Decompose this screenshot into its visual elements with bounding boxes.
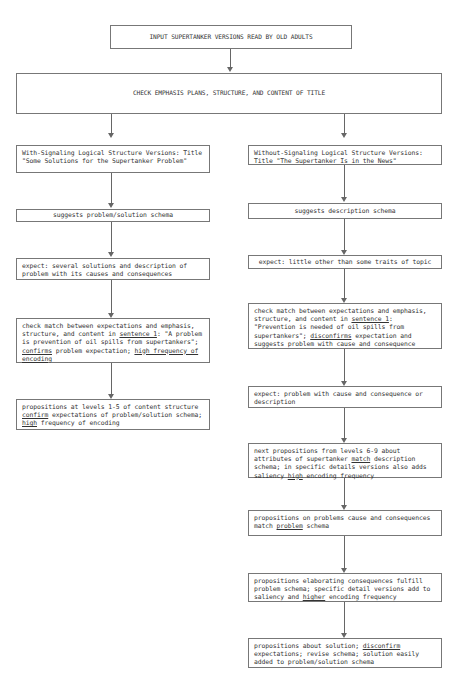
text-segment: encoding frequency [325, 593, 396, 601]
underlined-disconfirm: disconfirm [363, 642, 400, 650]
right-box-expect-problem: expect: problem with cause and consequen… [248, 386, 442, 408]
right-box-check-match: check match between expectations and emp… [248, 303, 442, 349]
text-segment: encoding frequency [303, 472, 374, 480]
right-box-1-text: Without-Signaling Logical Structure Vers… [254, 149, 423, 165]
underlined-sentence-1: sentence 1 [351, 315, 388, 323]
connector-right-1 [344, 164, 345, 198]
underlined-confirm: confirm [22, 411, 48, 419]
right-box-suggests-schema: suggests description schema [248, 203, 442, 219]
underlined-match: match [351, 455, 370, 463]
left-box-2-text: suggests problem/solution schema [53, 211, 173, 219]
underlined-disconfirms: disconfirms [310, 332, 351, 340]
arrowhead-icon [341, 197, 347, 202]
underlined-sentence-1: sentence 1 [119, 330, 156, 338]
check-title-box: CHECK EMPHASIS PLANS, STRUCTURE, AND CON… [16, 73, 442, 114]
connector-right-5 [344, 407, 345, 439]
connector-right-4 [344, 348, 345, 382]
connector-left-3 [111, 280, 112, 314]
underlined-high: high [288, 472, 303, 480]
right-box-next-propositions: next propositions from levels 6-9 about … [248, 443, 442, 478]
connector-right-2 [344, 219, 345, 251]
underlined-high: high [22, 419, 37, 427]
text-segment: expectations; revise schema; solution ea… [254, 650, 419, 666]
arrowhead-icon [108, 133, 114, 138]
connector-right-3 [344, 268, 345, 299]
right-box-3-text: expect: little other than some traits of… [259, 258, 431, 266]
right-box-expect-traits: expect: little other than some traits of… [248, 255, 442, 269]
left-box-suggests-schema: suggests problem/solution schema [16, 209, 210, 222]
right-box-problem-cause: propositions on problems cause and conse… [248, 510, 442, 536]
connector-right-8 [344, 601, 345, 634]
check-title-text: CHECK EMPHASIS PLANS, STRUCTURE, AND CON… [133, 89, 325, 97]
arrowhead-icon [108, 252, 114, 257]
text-segment: check match between expectations and emp… [254, 307, 426, 323]
text-segment: propositions about solution; [254, 642, 363, 650]
connector-right-7 [344, 535, 345, 569]
left-box-expect: expect: several solutions and descriptio… [16, 258, 210, 280]
right-box-5-text: expect: problem with cause and consequen… [254, 390, 423, 406]
underlined-higher: higher [303, 593, 326, 601]
text-segment: schema [303, 522, 329, 530]
connector-left-2 [111, 221, 112, 253]
right-box-2-text: suggests description schema [294, 207, 395, 215]
right-box-solution: propositions about solution; disconfirm … [248, 638, 442, 668]
right-box-elaborating: propositions elaborating consequences fu… [248, 573, 442, 602]
underlined-problem: problem [277, 522, 303, 530]
input-box-text: INPUT SUPERTANKER VERSIONS READ BY OLD A… [149, 33, 312, 41]
left-box-with-signaling: With-Signaling Logical Structure Version… [16, 145, 210, 173]
left-box-propositions: propositions at levels 1-5 of content st… [16, 399, 210, 430]
text-segment: frequency of encoding [37, 419, 119, 427]
right-box-without-signaling: Without-Signaling Logical Structure Vers… [248, 145, 442, 165]
left-box-1-text: With-Signaling Logical Structure Version… [22, 149, 202, 165]
underlined-confirms: confirms [22, 347, 52, 355]
connector-right-6 [344, 477, 345, 506]
connector-left-1 [111, 172, 112, 204]
text-segment: propositions at levels 1-5 of content st… [22, 403, 198, 411]
arrowhead-icon [108, 203, 114, 208]
arrowhead-icon [227, 67, 233, 72]
text-segment: problem expectation; [52, 347, 134, 355]
left-box-3-text: expect: several solutions and descriptio… [22, 262, 187, 278]
text-segment: expectations of problem/solution schema; [48, 411, 202, 419]
arrowhead-icon [341, 133, 347, 138]
input-box: INPUT SUPERTANKER VERSIONS READ BY OLD A… [110, 25, 352, 49]
connector-left-4 [111, 363, 112, 395]
left-box-check-match: check match between expectations and emp… [16, 318, 210, 363]
